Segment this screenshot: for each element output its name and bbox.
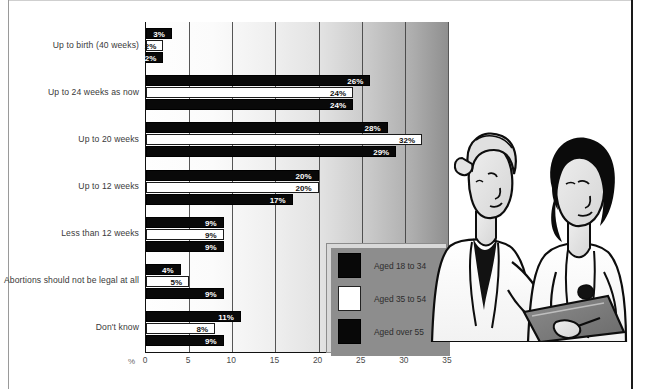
bar-value-label: 5% xyxy=(168,278,186,287)
bar: 29% xyxy=(146,146,396,157)
bar: 24% xyxy=(146,99,353,110)
bar: 8% xyxy=(146,323,215,334)
bar-slot: 2% xyxy=(146,52,448,63)
bar-slot: 9% xyxy=(146,229,448,240)
x-tick-label: 35 xyxy=(442,355,451,365)
bar-shadow xyxy=(149,90,354,99)
category-group: Up to 12 weeks20%20%17% xyxy=(146,170,448,206)
x-axis-unit-label: % xyxy=(128,357,135,366)
legend-label: Aged 35 to 54 xyxy=(374,294,426,304)
bar-shadow xyxy=(149,125,389,134)
bar: 9% xyxy=(146,217,224,228)
bar-value-label: 29% xyxy=(370,148,392,157)
page-root: Up to birth (40 weeks)3%2%2%Up to 24 wee… xyxy=(0,0,645,389)
category-group: Up to birth (40 weeks)3%2%2% xyxy=(146,28,448,64)
bar: 20% xyxy=(146,170,319,181)
bar-slot: 32% xyxy=(146,134,448,145)
category-label: Less than 12 weeks xyxy=(61,228,139,238)
bar-value-label: 3% xyxy=(150,30,168,39)
bar-value-label: 20% xyxy=(293,172,315,181)
bar-slot: 24% xyxy=(146,87,448,98)
bar-slot: 17% xyxy=(146,194,448,205)
bar: 4% xyxy=(146,264,181,275)
category-group: Up to 24 weeks as now26%24%24% xyxy=(146,75,448,111)
bar: 9% xyxy=(146,241,224,252)
category-label: Don't know xyxy=(96,322,139,332)
page-right-rule xyxy=(631,0,633,389)
bar: 9% xyxy=(146,288,224,299)
legend-swatch xyxy=(338,286,361,311)
bar-shadow xyxy=(149,78,371,87)
bar-value-label: 24% xyxy=(327,89,349,98)
bar-value-label: 9% xyxy=(202,337,220,346)
bar: 17% xyxy=(146,194,293,205)
category-label: Abortions should not be legal at all xyxy=(4,275,139,285)
bar-value-label: 20% xyxy=(293,184,315,193)
bar-shadow xyxy=(149,149,397,158)
bar: 9% xyxy=(146,335,224,346)
category-label: Up to 12 weeks xyxy=(78,181,139,191)
bar-value-label: 28% xyxy=(362,124,384,133)
x-tick-label: 5 xyxy=(186,355,191,365)
bar-value-label: 4% xyxy=(159,266,177,275)
bar: 28% xyxy=(146,122,388,133)
bar-slot: 9% xyxy=(146,217,448,228)
bar-value-label: 9% xyxy=(202,290,220,299)
x-tick-label: 10 xyxy=(227,355,236,365)
bar-slot: 20% xyxy=(146,182,448,193)
bar-slot: 3% xyxy=(146,28,448,39)
bar-slot: 2% xyxy=(146,40,448,51)
x-tick-label: 30 xyxy=(399,355,408,365)
x-tick-label: 15 xyxy=(270,355,279,365)
bar-slot: 20% xyxy=(146,170,448,181)
bar-slot: 24% xyxy=(146,99,448,110)
category-group: Up to 20 weeks28%32%29% xyxy=(146,122,448,158)
bar-value-label: 32% xyxy=(396,136,418,145)
legend-swatch xyxy=(338,253,361,278)
bar-value-label: 11% xyxy=(215,313,237,322)
legend-label: Aged 18 to 34 xyxy=(374,261,426,271)
category-label: Up to 20 weeks xyxy=(78,134,139,144)
x-tick-label: 0 xyxy=(143,355,148,365)
bar: 32% xyxy=(146,134,422,145)
bar-value-label: 8% xyxy=(193,325,211,334)
bar: 2% xyxy=(146,52,163,63)
x-tick-label: 20 xyxy=(313,355,322,365)
bar-value-label: 17% xyxy=(267,196,289,205)
legend-swatch xyxy=(338,319,361,344)
x-axis: 05101520253035 xyxy=(145,355,447,371)
two-women-doctors-illustration xyxy=(428,96,628,342)
bar-value-label: 24% xyxy=(327,101,349,110)
bar-slot: 26% xyxy=(146,75,448,86)
bar: 5% xyxy=(146,276,189,287)
bar: 3% xyxy=(146,28,172,39)
bar-value-label: 26% xyxy=(344,77,366,86)
bar-value-label: 9% xyxy=(202,219,220,228)
bar: 24% xyxy=(146,87,353,98)
bar: 20% xyxy=(146,182,319,193)
category-label: Up to 24 weeks as now xyxy=(48,87,139,97)
x-tick-label: 25 xyxy=(356,355,365,365)
bar-shadow xyxy=(149,102,354,111)
category-label: Up to birth (40 weeks) xyxy=(53,40,139,50)
bar-slot: 28% xyxy=(146,122,448,133)
bar: 11% xyxy=(146,311,241,322)
bar: 9% xyxy=(146,229,224,240)
bar: 26% xyxy=(146,75,370,86)
bar-slot: 29% xyxy=(146,146,448,157)
bar-value-label: 9% xyxy=(202,243,220,252)
legend-label: Aged over 55 xyxy=(374,327,424,337)
bar-value-label: 9% xyxy=(202,231,220,240)
bar-value-label: 2% xyxy=(142,54,160,63)
bar-value-label: 2% xyxy=(142,42,160,51)
bar: 2% xyxy=(146,40,163,51)
bar-shadow xyxy=(149,137,423,146)
